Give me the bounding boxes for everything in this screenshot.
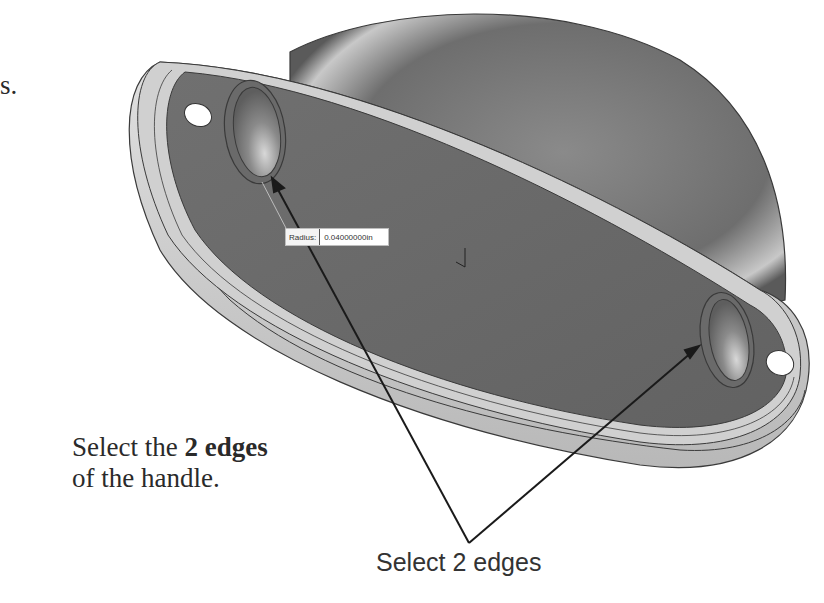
instruction-text: Select the 2 edges of the handle.: [72, 432, 268, 494]
instruction-prefix: Select the: [72, 432, 184, 462]
radius-label: Radius:: [286, 229, 320, 245]
radius-value-input[interactable]: 0.04000000in: [320, 229, 388, 245]
instruction-bold: 2 edges: [184, 432, 267, 462]
instruction-line2: of the handle.: [72, 463, 220, 493]
radius-input-box[interactable]: Radius: 0.04000000in: [285, 228, 389, 246]
cad-viewport[interactable]: [0, 0, 824, 603]
textbook-page: s.: [0, 0, 824, 603]
callout-label: Select 2 edges: [376, 548, 541, 577]
